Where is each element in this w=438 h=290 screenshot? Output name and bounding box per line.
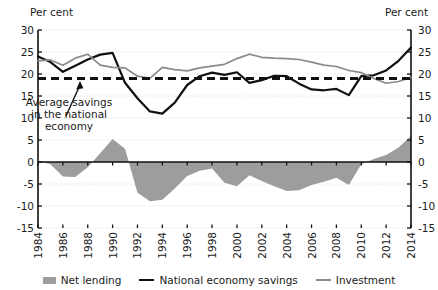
legend-item-net-lending[interactable]: Net lending — [43, 274, 122, 286]
legend-label-national-economy-savings: National economy savings — [159, 274, 297, 286]
series-net-lending — [38, 136, 411, 201]
legend-swatch-line-gray-icon — [316, 279, 331, 281]
annotation-line-0: Average savings — [10, 96, 128, 108]
legend-swatch-line-black-icon — [139, 279, 154, 282]
plot-area — [0, 0, 438, 290]
annotation-line-1: in the national — [10, 108, 128, 120]
legend-item-national-economy-savings[interactable]: National economy savings — [139, 274, 297, 286]
legend-label-net-lending: Net lending — [61, 274, 122, 286]
legend-item-investment[interactable]: Investment — [316, 274, 395, 286]
chart-legend: Net lending National economy savings Inv… — [0, 274, 438, 286]
chart-container: Per cent Per cent 302520151050-5-10-15 3… — [0, 0, 438, 290]
annotation-line-2: economy — [10, 120, 128, 132]
legend-swatch-area-icon — [43, 277, 56, 284]
legend-label-investment: Investment — [336, 274, 395, 286]
annotation-average-savings: Average savingsin the nationaleconomy — [10, 96, 128, 132]
